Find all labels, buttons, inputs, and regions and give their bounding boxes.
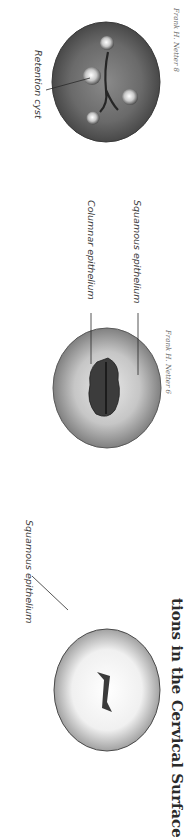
artist-signature-top: Frank H. Netter 8 bbox=[172, 8, 180, 72]
cervix-ectropion-illustration bbox=[53, 313, 161, 448]
figure-title: tions in the Cervical Surface bbox=[168, 598, 186, 838]
cervix-retention-cyst-illustration bbox=[46, 22, 160, 142]
label-columnar-epithelium: Columnar epithelium bbox=[86, 200, 97, 300]
artist-signature-middle: Frank H. Netter 6 bbox=[164, 330, 172, 394]
label-retention-cyst: Retention cyst bbox=[33, 50, 44, 119]
cervix-normal-illustration bbox=[32, 576, 160, 751]
label-squamous-epithelium-middle: Squamous epithelium bbox=[132, 200, 143, 304]
label-squamous-epithelium-bottom: Squamous epithelium bbox=[24, 520, 35, 624]
